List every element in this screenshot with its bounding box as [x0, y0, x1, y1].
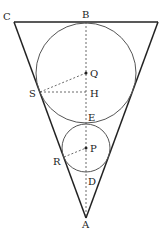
- point-p: [85, 147, 88, 150]
- label-q: Q: [90, 68, 98, 79]
- segment-left: [14, 22, 86, 218]
- label-c: C: [3, 11, 11, 22]
- point-q: [85, 72, 88, 75]
- segment-rp: [64, 148, 86, 157]
- label-e: E: [88, 112, 95, 123]
- label-p: P: [90, 143, 97, 154]
- label-r: R: [53, 156, 61, 167]
- geometry-diagram: C B Q S H E P R D A: [0, 0, 160, 229]
- segment-sq: [40, 73, 86, 92]
- segment-right: [86, 22, 158, 218]
- label-b: B: [82, 9, 89, 20]
- label-d: D: [88, 176, 96, 187]
- label-h: H: [90, 88, 99, 99]
- label-s: S: [29, 88, 36, 99]
- label-a: A: [81, 219, 90, 229]
